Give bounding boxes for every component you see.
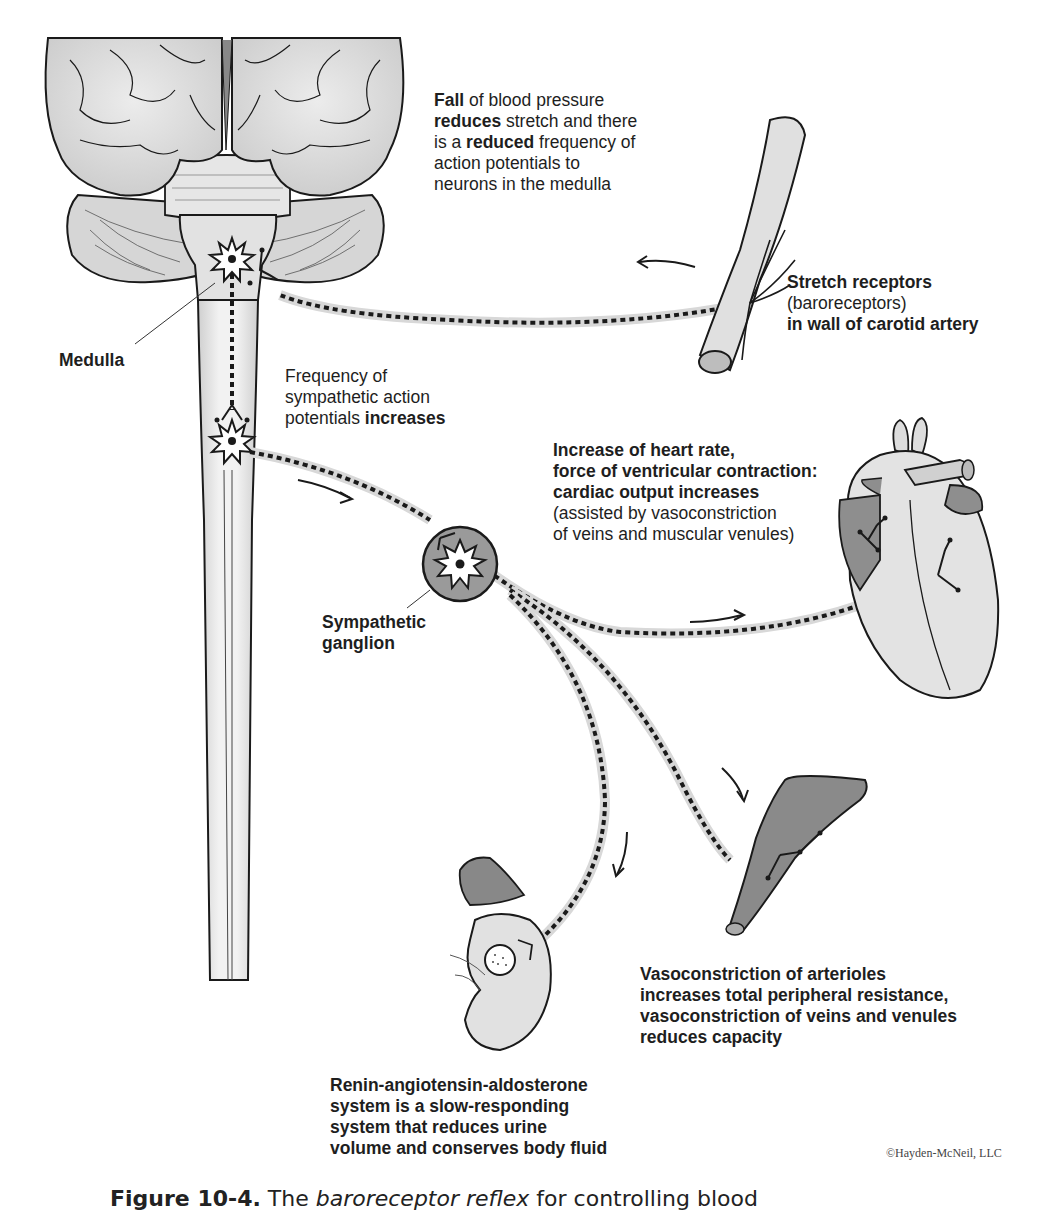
copyright-notice: ©Hayden-McNeil, LLC [886, 1146, 1002, 1161]
label-raas: Renin-angiotensin-aldosterone system is … [330, 1075, 607, 1159]
arteriole [726, 776, 867, 935]
label-fall-blood-pressure: Fall of blood pressure reduces stretch a… [434, 90, 637, 195]
kidney-illustration [450, 858, 551, 1051]
figure-caption: Figure 10-4. The baroreceptor reflex for… [110, 1186, 758, 1211]
label-sympathetic-ganglion: Sympathetic ganglion [322, 612, 426, 654]
label-stretch-receptors: Stretch receptors (baroreceptors) in wal… [787, 272, 979, 335]
sympathetic-ganglion [407, 527, 497, 608]
heart-illustration [839, 418, 998, 698]
label-heart-output: Increase of heart rate, force of ventric… [553, 440, 818, 545]
brain-illustration [46, 38, 404, 980]
label-sympathetic-frequency: Frequency of sympathetic action potentia… [285, 366, 446, 429]
figure-number: Figure 10-4. [110, 1186, 261, 1211]
label-vasoconstriction: Vasoconstriction of arterioles increases… [640, 964, 957, 1048]
label-medulla: Medulla [59, 350, 124, 371]
